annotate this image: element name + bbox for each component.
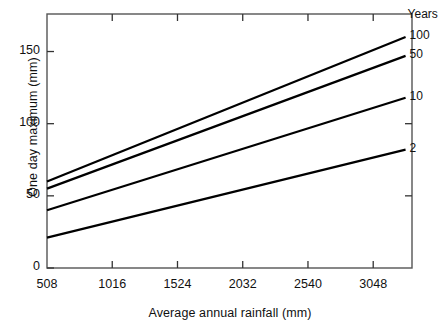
y-tick-label: 50	[0, 187, 40, 201]
series-line	[47, 56, 406, 189]
data-series-lines	[47, 37, 406, 238]
plot-frame	[47, 14, 412, 268]
series-label-50yr: 50	[410, 47, 423, 61]
y-tick-label: 100	[0, 115, 40, 129]
x-tick-label: 2032	[213, 277, 273, 291]
y-tick-label: 0	[0, 259, 40, 273]
x-tick-label: 3048	[343, 277, 403, 291]
x-axis-ticks	[112, 14, 373, 268]
x-tick-label: 508	[17, 277, 77, 291]
x-axis-label: Average annual rainfall (mm)	[47, 306, 413, 320]
legend-title: Years	[408, 7, 438, 21]
x-tick-label: 1524	[147, 277, 207, 291]
x-tick-label: 2540	[278, 277, 338, 291]
series-label-100yr: 100	[410, 28, 430, 42]
y-tick-label: 150	[0, 43, 40, 57]
series-label-2yr: 2	[410, 141, 417, 155]
x-tick-label: 1016	[82, 277, 142, 291]
series-label-10yr: 10	[410, 89, 423, 103]
series-line	[47, 37, 406, 181]
